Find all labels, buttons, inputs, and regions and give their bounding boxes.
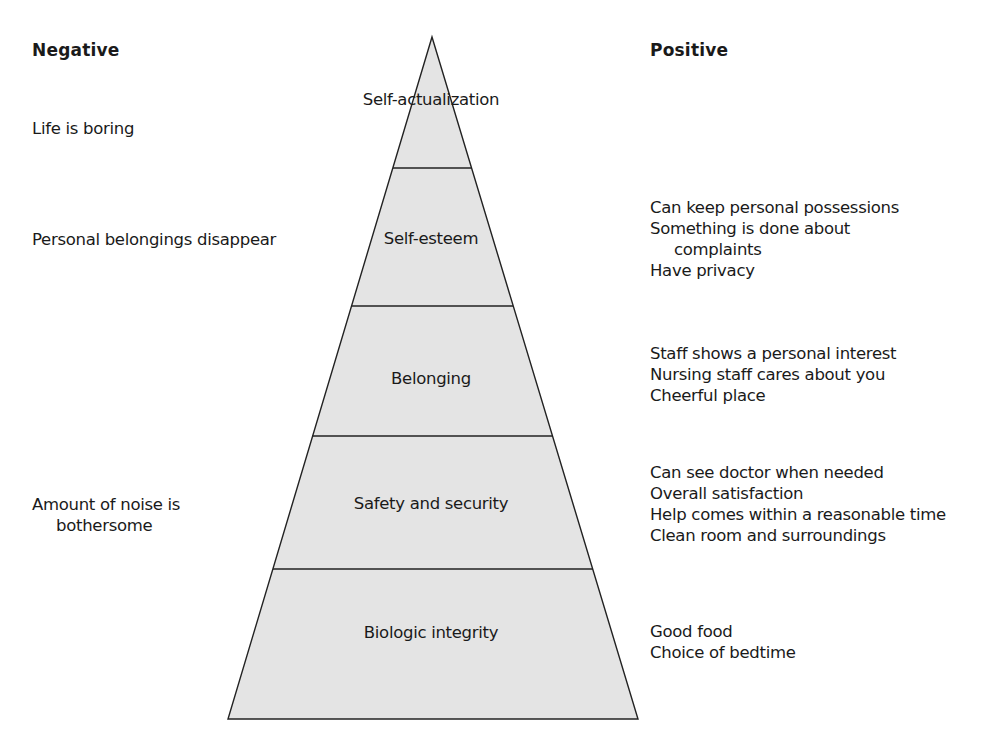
positive-belonging: Staff shows a personal interest Nursing … xyxy=(650,343,896,406)
tier-belonging: Belonging xyxy=(391,369,471,388)
positive-item: Staff shows a personal interest xyxy=(650,343,896,364)
negative-self-esteem: Personal belongings disappear xyxy=(32,229,276,250)
positive-safety: Can see doctor when needed Overall satis… xyxy=(650,462,946,546)
positive-item: Nursing staff cares about you xyxy=(650,364,896,385)
positive-item: Have privacy xyxy=(650,260,899,281)
positive-item: Can keep personal possessions xyxy=(650,197,899,218)
positive-item: Help comes within a reasonable time xyxy=(650,504,946,525)
positive-item: Clean room and surroundings xyxy=(650,525,946,546)
positive-item: Overall satisfaction xyxy=(650,483,946,504)
negative-item: Life is boring xyxy=(32,118,134,139)
tier-biologic-integrity: Biologic integrity xyxy=(364,623,498,642)
positive-item-continued: complaints xyxy=(650,239,899,260)
negative-item: Amount of noise is xyxy=(32,494,180,515)
tier-safety-security: Safety and security xyxy=(354,494,509,513)
positive-biologic: Good food Choice of bedtime xyxy=(650,621,796,663)
positive-item: Can see doctor when needed xyxy=(650,462,946,483)
positive-item: Cheerful place xyxy=(650,385,896,406)
tier-self-actualization: Self-actualization xyxy=(363,90,499,109)
negative-item-continued: bothersome xyxy=(32,515,180,536)
positive-self-esteem: Can keep personal possessions Something … xyxy=(650,197,899,281)
positive-item: Choice of bedtime xyxy=(650,642,796,663)
negative-item: Personal belongings disappear xyxy=(32,229,276,250)
positive-item: Good food xyxy=(650,621,796,642)
negative-safety: Amount of noise is bothersome xyxy=(32,494,180,536)
tier-self-esteem: Self-esteem xyxy=(384,229,478,248)
positive-item: Something is done about xyxy=(650,218,899,239)
negative-self-actualization: Life is boring xyxy=(32,118,134,139)
